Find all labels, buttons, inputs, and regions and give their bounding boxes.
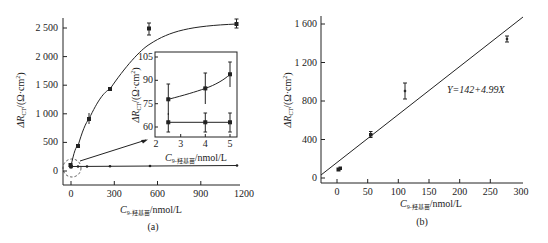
b-points xyxy=(337,36,509,171)
b-xtick-100: 100 xyxy=(391,186,406,197)
a-xtick-0: 0 xyxy=(69,188,74,199)
a-ytick-2000: 2 000 xyxy=(36,51,59,62)
b-fit-equation: Y=142+4.99X xyxy=(447,84,506,95)
a-ytick-2500: 2 500 xyxy=(36,22,59,33)
inset-ylabel: ΔRCT/(Ω·cm2) xyxy=(130,67,142,123)
inset-xtick-4: 4 xyxy=(203,138,208,149)
b-ylabel: ΔRCT/(Ω·cm2) xyxy=(282,72,294,128)
inset-xtick-3: 3 xyxy=(178,138,183,149)
a-xtick-900: 900 xyxy=(193,188,208,199)
a-caption: (a) xyxy=(147,221,158,233)
a-xlabel: C9-羟基苗/nmol/L xyxy=(120,204,182,217)
b-ytick-800: 800 xyxy=(302,95,317,106)
b-xtick-200: 200 xyxy=(452,186,467,197)
a-xtick-1200: 1200 xyxy=(234,188,254,199)
b-ytick-400: 400 xyxy=(302,134,317,145)
a-ylabel: ΔRCT/(Ω·cm2) xyxy=(15,72,27,128)
a-ytick-0: 0 xyxy=(53,165,58,176)
b-xtick-300: 300 xyxy=(514,186,529,197)
b-xtick-0: 0 xyxy=(335,186,340,197)
b-fit-line xyxy=(321,17,523,175)
a-ytick-1000: 1 000 xyxy=(36,108,59,119)
b-ytick-1600: 1 600 xyxy=(295,18,318,29)
inset-xtick-2: 2 xyxy=(154,138,159,149)
a-xtick-600: 600 xyxy=(150,188,165,199)
b-ytick-0: 0 xyxy=(312,172,317,183)
panel-b: 0 400 800 1 200 1 600 0 50 100 150 200 2… xyxy=(282,16,529,228)
b-xtick-150: 150 xyxy=(422,186,437,197)
inset-xlabel: C9-羟基苗/nmol/L xyxy=(165,152,227,165)
b-ytick-1200: 1 200 xyxy=(295,57,318,68)
a-xtick-300: 300 xyxy=(107,188,122,199)
b-xtick-50: 50 xyxy=(363,186,373,197)
figure: 0 500 1 000 1 500 2 000 2 500 0 300 600 … xyxy=(0,0,548,243)
inset-ytick-90: 90 xyxy=(143,74,153,85)
panel-a: 0 500 1 000 1 500 2 000 2 500 0 300 600 … xyxy=(15,18,254,233)
a-ytick-500: 500 xyxy=(43,136,58,147)
b-caption: (b) xyxy=(416,216,428,228)
a-ytick-1500: 1 500 xyxy=(36,79,59,90)
inset-ytick-75: 75 xyxy=(143,98,153,109)
inset-xtick-5: 5 xyxy=(228,138,233,149)
inset-ytick-60: 60 xyxy=(143,121,153,132)
b-xtick-250: 250 xyxy=(483,186,498,197)
inset-a: 105 90 75 60 2 3 4 5 ΔRCT/(Ω·cm2) C9-羟基苗… xyxy=(130,51,237,165)
b-xlabel: C9-羟基苗/nmol/L xyxy=(400,198,462,211)
inset-ytick-105: 105 xyxy=(138,51,153,62)
